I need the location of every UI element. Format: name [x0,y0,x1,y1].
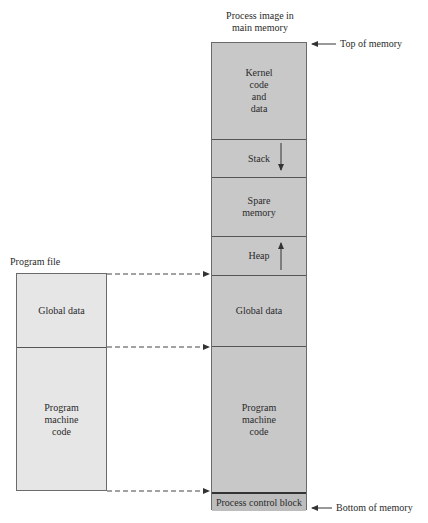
arrows-layer [0,0,428,523]
